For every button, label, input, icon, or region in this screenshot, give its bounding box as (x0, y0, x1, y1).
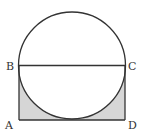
label-c: C (128, 60, 136, 73)
geometry-diagram: B C A D (0, 0, 142, 133)
label-b: B (6, 60, 14, 73)
label-d: D (128, 119, 137, 132)
label-a: A (4, 119, 14, 132)
shaded-region (19, 66, 125, 121)
